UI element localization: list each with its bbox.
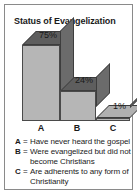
legend-text-b: Were evangelized but did not [30,147,131,157]
legend-item-c-continued: Christianity [15,177,135,187]
legend-equals-b: = [23,147,30,157]
bar-b-value-label: 24% [75,75,93,85]
bar-a-value-label: 75% [39,30,57,40]
legend-key-c: C [15,167,23,177]
legend-text-c: Are adherents to any form of [30,167,129,177]
legend-text-c-continued: Christianity [30,177,68,187]
legend-item-b-continued: become Christians [15,157,135,167]
bar-chart-plot-area: 75% 24% 1% A B C [14,31,134,127]
chart-legend: A = Have never heard the gospel B = Were… [15,137,135,187]
axis-label-b: B [70,123,84,133]
evangelization-infographic: Status of Evangelization 75% 24% 1% [0,0,137,194]
legend-text-b-continued: become Christians [30,157,95,167]
bar-c-front-face [96,118,130,121]
bar-c-value-label: 1% [113,101,126,111]
bar-b-side-face [96,63,110,107]
bar-a-front-face [22,45,60,121]
legend-text-a: Have never heard the gospel [30,137,130,147]
infographic-frame: Status of Evangelization 75% 24% 1% [4,4,133,190]
legend-item-a: A = Have never heard the gospel [15,137,135,147]
legend-key-a: A [15,137,23,147]
axis-label-a: A [34,123,48,133]
legend-item-c: C = Are adherents to any form of [15,167,135,177]
legend-equals-c: = [23,167,30,177]
legend-key-b: B [15,147,23,157]
legend-item-b: B = Were evangelized but did not [15,147,135,157]
bar-b-front-face [60,91,96,121]
legend-equals-a: = [23,137,30,147]
axis-label-c: C [106,123,120,133]
